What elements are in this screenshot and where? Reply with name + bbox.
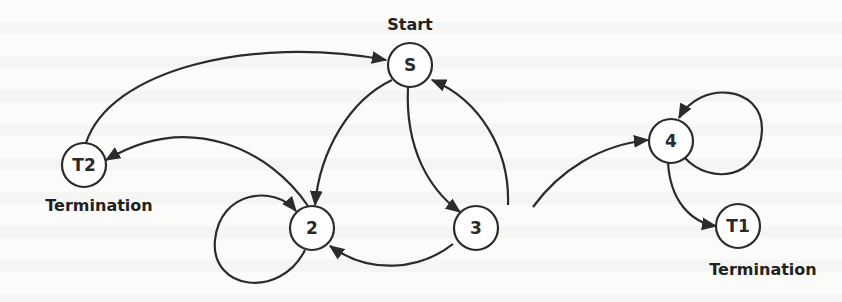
node-s[interactable]: Start S [387,15,433,87]
edge-3-to-2 [330,244,453,266]
node-s-label: S [404,55,416,75]
node-s-caption: Start [387,15,433,34]
node-4-label: 4 [665,131,677,151]
edge-t2-to-s [86,52,386,143]
node-t2-caption: Termination [45,196,152,215]
edge-s-to-2 [315,80,392,205]
edge-3-to-s [432,80,508,205]
node-4[interactable]: 4 [649,119,693,163]
node-2[interactable]: 2 [290,206,334,250]
node-t1-caption: Termination [709,260,816,279]
node-2-label: 2 [306,218,318,238]
node-t1-label: T1 [726,216,749,236]
node-t2-label: T2 [72,155,95,175]
node-t1[interactable]: T1 Termination [709,204,816,279]
node-t2[interactable]: T2 Termination [45,143,152,215]
state-diagram: Start S T2 Termination 2 3 4 T1 Terminat… [0,0,842,302]
edge-s-to-3 [408,87,460,212]
edge-3-to-4 [533,140,648,207]
edge-2-self-loop [215,196,305,283]
node-3[interactable]: 3 [454,206,498,250]
node-3-label: 3 [470,218,482,238]
